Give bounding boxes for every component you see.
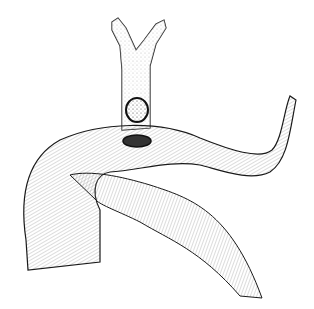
bifurcated-duct bbox=[112, 18, 166, 130]
anatomical-drawing bbox=[0, 0, 314, 309]
organ-opening bbox=[123, 135, 151, 147]
curved-organ bbox=[24, 96, 296, 298]
illustration-canvas bbox=[0, 0, 314, 309]
duct-opening bbox=[126, 98, 148, 122]
